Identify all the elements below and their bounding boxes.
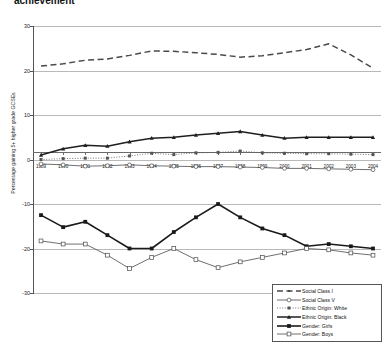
data-point <box>283 251 287 255</box>
data-point <box>371 168 375 172</box>
data-point <box>327 152 330 155</box>
data-point <box>260 166 264 170</box>
legend-marker <box>287 332 291 336</box>
data-point <box>40 158 43 161</box>
legend-item[interactable]: Gender: Girls <box>276 321 379 330</box>
data-point <box>61 163 65 167</box>
y-axis-tick-label: -20 <box>14 246 30 252</box>
data-point <box>150 164 154 168</box>
data-point <box>238 260 242 264</box>
data-point <box>83 220 87 224</box>
legend-item[interactable]: Social Class I <box>276 287 379 296</box>
y-axis-tick-label: -10 <box>14 201 30 207</box>
data-point <box>217 151 220 154</box>
y-axis-tick-label: 20 <box>14 68 30 74</box>
legend-item[interactable]: Gender: Boys <box>276 330 379 339</box>
series-ethnic-origin-white <box>40 150 375 161</box>
data-point <box>150 152 153 155</box>
data-point <box>83 242 87 246</box>
y-axis-title: Percentage gaining 5+ higher grade GCSEs <box>10 68 16 218</box>
y-axis-tick-label: 10 <box>14 112 30 118</box>
legend-marker <box>288 290 290 292</box>
data-point <box>128 163 132 167</box>
data-point <box>106 164 110 168</box>
data-point <box>260 256 264 260</box>
data-point <box>172 153 175 156</box>
series-social-class-v <box>39 162 375 172</box>
data-point <box>305 247 309 251</box>
data-point <box>128 267 132 271</box>
data-point <box>305 152 308 155</box>
data-point <box>39 213 43 217</box>
data-point <box>106 233 110 237</box>
data-point <box>283 167 287 171</box>
legend-item[interactable]: Ethnic Origin: Black <box>276 313 379 322</box>
data-point <box>372 153 375 156</box>
plot-area: 3020100-10-20-30 19891990199119921993199… <box>33 26 381 293</box>
data-point <box>283 233 287 237</box>
data-point <box>216 202 220 206</box>
legend-label: Ethnic Origin: White <box>302 304 347 312</box>
y-axis-tick-label: -30 <box>14 290 30 296</box>
data-point <box>349 251 353 255</box>
legend-symbol <box>276 322 302 330</box>
legend-marker <box>288 307 291 310</box>
data-point <box>327 242 331 246</box>
data-point <box>128 247 132 251</box>
data-point <box>39 162 43 166</box>
legend-label: Social Class I <box>302 287 333 295</box>
legend-label: Gender: Girls <box>302 322 332 330</box>
data-point <box>106 157 109 160</box>
legend: Social Class ISocial Class VEthnic Origi… <box>272 284 382 342</box>
series-gender-girls <box>39 202 375 250</box>
data-point <box>194 258 198 262</box>
data-point <box>371 247 375 251</box>
data-point <box>260 227 264 231</box>
data-point <box>261 151 264 154</box>
legend-item[interactable]: Ethnic Origin: White <box>276 304 379 313</box>
data-point <box>150 247 154 251</box>
data-point <box>84 157 87 160</box>
data-point <box>371 253 375 257</box>
data-point <box>194 165 198 169</box>
data-point <box>327 248 331 252</box>
series-social-class-i <box>41 44 373 68</box>
legend-marker <box>287 324 291 328</box>
data-point <box>194 151 197 154</box>
data-point <box>172 164 176 168</box>
data-point <box>305 167 309 171</box>
data-point <box>327 167 331 171</box>
data-point <box>349 167 353 171</box>
y-axis-tick-label: 0 <box>14 157 30 163</box>
legend-symbol <box>276 296 302 304</box>
data-point <box>172 247 176 251</box>
data-point <box>61 242 65 246</box>
data-point <box>61 225 65 229</box>
legend-symbol <box>276 304 302 312</box>
data-point <box>62 157 65 160</box>
data-point <box>239 150 242 153</box>
data-point <box>283 152 286 155</box>
legend-marker <box>287 298 291 302</box>
data-point <box>349 244 353 248</box>
legend-label: Ethnic Origin: Black <box>302 313 346 321</box>
y-axis-tick-label: 30 <box>14 23 30 29</box>
legend-symbol <box>276 287 302 295</box>
series-lines <box>33 26 381 294</box>
data-point <box>216 266 220 270</box>
data-point <box>106 253 110 257</box>
data-point <box>128 154 131 157</box>
data-point <box>216 165 220 169</box>
legend-symbol <box>276 313 302 321</box>
legend-item[interactable]: Social Class V <box>276 296 379 305</box>
page-title: achievement <box>14 0 274 5</box>
legend-label: Social Class V <box>302 296 335 304</box>
data-point <box>150 256 154 260</box>
legend-label: Gender: Boys <box>302 330 333 338</box>
data-point <box>172 230 176 234</box>
data-point <box>238 165 242 169</box>
data-point <box>194 215 198 219</box>
data-point <box>83 164 87 168</box>
data-point <box>238 215 242 219</box>
data-point <box>39 239 43 243</box>
